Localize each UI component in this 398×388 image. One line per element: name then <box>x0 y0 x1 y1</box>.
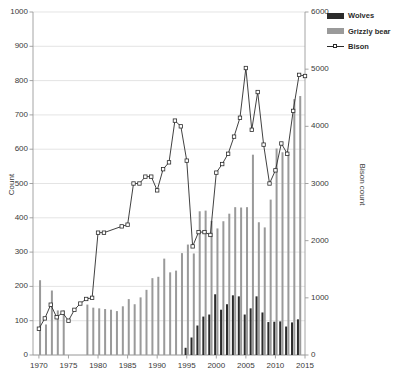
bar-wolves <box>214 294 216 355</box>
marker-bison <box>268 182 271 185</box>
bar-wolves <box>256 296 258 355</box>
bar-grizzly-bear <box>181 253 183 355</box>
bar-grizzly-bear <box>151 278 153 355</box>
bar-grizzly-bear <box>39 280 41 355</box>
bar-wolves <box>244 315 246 355</box>
bar-wolves <box>285 327 287 355</box>
bar-grizzly-bear <box>45 324 47 355</box>
bar-grizzly-bear <box>140 297 142 355</box>
bar-grizzly-bear <box>163 259 165 355</box>
marker-bison <box>161 168 164 171</box>
bar-grizzly-bear <box>187 245 189 355</box>
marker-bison <box>144 175 147 178</box>
marker-bison <box>79 302 82 305</box>
marker-bison <box>221 162 224 165</box>
marker-bison <box>43 317 46 320</box>
marker-bison <box>37 327 40 330</box>
bar-grizzly-bear <box>104 309 106 355</box>
legend-line-marker-bison <box>327 43 344 50</box>
bar-grizzly-bear <box>116 311 118 355</box>
marker-bison <box>85 297 88 300</box>
marker-bison <box>120 225 123 228</box>
bar-grizzly-bear <box>86 305 88 355</box>
marker-bison <box>49 303 52 306</box>
bar-wolves <box>267 322 269 355</box>
bar-grizzly-bear <box>228 214 230 355</box>
marker-bison <box>250 128 253 131</box>
marker-bison <box>286 152 289 155</box>
bar-wolves <box>297 319 299 355</box>
chart-legend: Wolves Grizzly bear Bison <box>327 12 391 59</box>
bar-wolves <box>279 321 281 355</box>
legend-item-grizzly-bear: Grizzly bear <box>327 28 391 36</box>
bar-wolves <box>191 338 193 355</box>
bar-grizzly-bear <box>258 222 260 355</box>
bar-wolves <box>208 315 210 355</box>
marker-bison <box>297 73 300 76</box>
bar-grizzly-bear <box>157 277 159 355</box>
legend-label-grizzly-bear: Grizzly bear <box>348 28 391 36</box>
bar-wolves <box>273 322 275 355</box>
bar-wolves <box>291 322 293 355</box>
bar-grizzly-bear <box>270 200 272 355</box>
legend-label-wolves: Wolves <box>348 12 374 20</box>
bar-wolves <box>226 304 228 355</box>
bar-grizzly-bear <box>128 299 130 355</box>
marker-bison <box>167 161 170 164</box>
bar-grizzly-bear <box>145 290 147 355</box>
marker-bison <box>138 182 141 185</box>
bar-group <box>39 96 301 355</box>
marker-bison <box>238 116 241 119</box>
bar-grizzly-bear <box>92 308 94 355</box>
legend-label-bison: Bison <box>348 43 369 51</box>
marker-bison <box>244 66 247 69</box>
chart-figure: Count Bison count 0100200300400500600700… <box>0 0 398 388</box>
bar-grizzly-bear <box>193 253 195 355</box>
marker-bison <box>126 223 129 226</box>
bar-grizzly-bear <box>216 228 218 355</box>
bar-grizzly-bear <box>287 154 289 355</box>
marker-bison <box>209 233 212 236</box>
marker-bison <box>262 143 265 146</box>
legend-item-wolves: Wolves <box>327 12 391 20</box>
marker-bison <box>274 169 277 172</box>
bar-grizzly-bear <box>252 155 254 355</box>
marker-bison <box>150 175 153 178</box>
bar-grizzly-bear <box>246 207 248 355</box>
bar-grizzly-bear <box>63 310 65 355</box>
bar-wolves <box>238 296 240 355</box>
marker-bison <box>185 159 188 162</box>
bar-grizzly-bear <box>98 308 100 355</box>
marker-bison <box>191 245 194 248</box>
marker-bison <box>203 230 206 233</box>
bar-wolves <box>185 348 187 355</box>
marker-bison <box>73 308 76 311</box>
bar-grizzly-bear <box>51 291 53 355</box>
bar-wolves <box>261 312 263 355</box>
bar-grizzly-bear <box>281 152 283 355</box>
bar-wolves <box>220 310 222 355</box>
bar-wolves <box>196 326 198 355</box>
marker-bison <box>256 90 259 93</box>
marker-bison <box>55 316 58 319</box>
marker-bison <box>179 125 182 128</box>
marker-bison <box>232 135 235 138</box>
marker-bison <box>90 296 93 299</box>
marker-bison <box>61 311 64 314</box>
marker-bison <box>132 182 135 185</box>
marker-bison <box>67 319 70 322</box>
marker-bison <box>96 231 99 234</box>
bar-grizzly-bear <box>175 271 177 355</box>
bar-grizzly-bear <box>134 304 136 355</box>
marker-bison <box>102 231 105 234</box>
bar-grizzly-bear <box>110 310 112 355</box>
bar-grizzly-bear <box>211 221 213 355</box>
marker-bison <box>155 189 158 192</box>
bar-grizzly-bear <box>293 99 295 355</box>
bar-grizzly-bear <box>222 221 224 355</box>
marker-bison <box>291 109 294 112</box>
bar-grizzly-bear <box>234 207 236 355</box>
legend-item-bison: Bison <box>327 43 391 51</box>
marker-bison <box>303 74 306 77</box>
marker-bison <box>197 230 200 233</box>
